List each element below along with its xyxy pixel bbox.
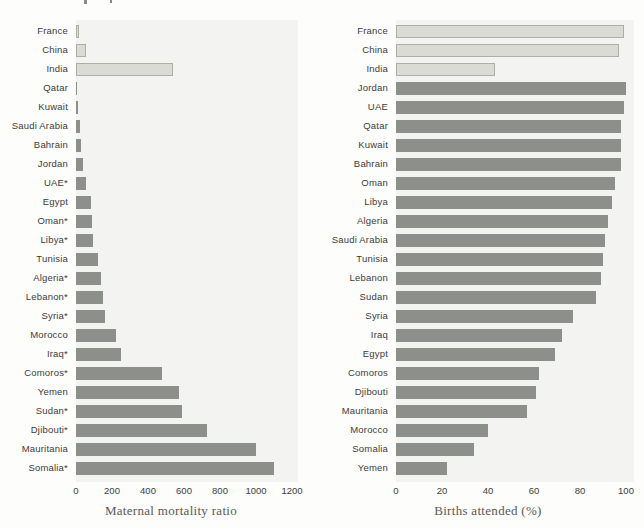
country-label: Djibouti* xyxy=(0,424,72,436)
bar xyxy=(396,196,612,209)
x-tick-label: 1200 xyxy=(275,485,309,496)
country-label: UAE* xyxy=(0,177,72,189)
bar xyxy=(76,462,274,475)
bar xyxy=(396,253,603,266)
bar xyxy=(76,253,98,266)
bar xyxy=(76,424,207,437)
country-label: Algeria xyxy=(322,215,392,227)
country-label: Libya xyxy=(322,196,392,208)
figure-canvas: FranceChinaIndiaQatarKuwaitSaudi ArabiaB… xyxy=(0,0,644,528)
country-label: Egypt xyxy=(322,348,392,360)
bar xyxy=(396,329,562,342)
country-label: Kuwait xyxy=(322,139,392,151)
x-tick-label: 800 xyxy=(203,485,237,496)
bar xyxy=(396,63,495,76)
bar xyxy=(396,120,621,133)
country-label: Mauritania xyxy=(322,405,392,417)
x-tick-label: 0 xyxy=(59,485,93,496)
bar xyxy=(76,272,101,285)
bar xyxy=(396,272,601,285)
country-label: Syria* xyxy=(0,310,72,322)
bar xyxy=(396,424,488,437)
country-label: Algeria* xyxy=(0,272,72,284)
country-label: Tunisia xyxy=(322,253,392,265)
country-label: Comoros xyxy=(322,367,392,379)
bar xyxy=(396,405,527,418)
maternal-mortality-chart: FranceChinaIndiaQatarKuwaitSaudi ArabiaB… xyxy=(0,0,322,528)
country-label: Qatar xyxy=(0,82,72,94)
country-label: China xyxy=(322,44,392,56)
bar xyxy=(76,443,256,456)
country-label: France xyxy=(0,25,72,37)
bar xyxy=(76,405,182,418)
country-label: UAE xyxy=(322,101,392,113)
bar xyxy=(76,139,81,152)
country-label: Somalia xyxy=(322,443,392,455)
bar xyxy=(396,158,621,171)
country-label: Iraq* xyxy=(0,348,72,360)
country-label: Yemen xyxy=(322,462,392,474)
bar xyxy=(76,386,179,399)
x-tick-label: 1000 xyxy=(239,485,273,496)
bar xyxy=(76,44,86,57)
bar xyxy=(76,101,78,114)
country-label: Morocco xyxy=(322,424,392,436)
bar xyxy=(396,139,621,152)
x-tick-label: 200 xyxy=(95,485,129,496)
bar xyxy=(76,158,83,171)
bar xyxy=(76,196,91,209)
country-label: Djibouti xyxy=(322,386,392,398)
country-label: Oman xyxy=(322,177,392,189)
country-label: Lebanon* xyxy=(0,291,72,303)
country-label: Bahrain xyxy=(0,139,72,151)
country-label: Kuwait xyxy=(0,101,72,113)
x-tick-label: 80 xyxy=(563,485,597,496)
country-label: Morocco xyxy=(0,329,72,341)
country-label: Saudi Arabia xyxy=(0,120,72,132)
country-label: Saudi Arabia xyxy=(322,234,392,246)
country-label: Iraq xyxy=(322,329,392,341)
bar xyxy=(396,44,619,57)
bar xyxy=(396,310,573,323)
country-label: Bahrain xyxy=(322,158,392,170)
country-label: Sudan xyxy=(322,291,392,303)
country-label: Comoros* xyxy=(0,367,72,379)
x-tick-label: 40 xyxy=(471,485,505,496)
country-label: Yemen xyxy=(0,386,72,398)
x-axis-title: Maternal mortality ratio xyxy=(76,503,266,519)
country-label: Jordan xyxy=(322,82,392,94)
country-label: India xyxy=(322,63,392,75)
x-tick-label: 400 xyxy=(131,485,165,496)
country-label: France xyxy=(322,25,392,37)
bar xyxy=(396,367,539,380)
bar xyxy=(396,348,555,361)
bar xyxy=(76,120,80,133)
bar xyxy=(396,462,447,475)
bar xyxy=(76,177,86,190)
country-label: Lebanon xyxy=(322,272,392,284)
bar xyxy=(76,234,93,247)
country-label: Egypt xyxy=(0,196,72,208)
x-tick-label: 600 xyxy=(167,485,201,496)
bar xyxy=(396,234,605,247)
births-attended-chart: FranceChinaIndiaJordanUAEQatarKuwaitBahr… xyxy=(322,0,644,528)
country-label: Oman* xyxy=(0,215,72,227)
x-tick-label: 20 xyxy=(425,485,459,496)
country-label: Jordan xyxy=(0,158,72,170)
x-tick-label: 100 xyxy=(609,485,643,496)
bar xyxy=(396,215,608,228)
bar xyxy=(76,310,105,323)
bar xyxy=(396,291,596,304)
country-label: Syria xyxy=(322,310,392,322)
bar xyxy=(76,82,77,95)
country-label: China xyxy=(0,44,72,56)
country-label: India xyxy=(0,63,72,75)
bar xyxy=(396,177,615,190)
bar xyxy=(76,63,173,76)
x-tick-label: 60 xyxy=(517,485,551,496)
bar xyxy=(76,329,116,342)
x-axis-title: Births attended (%) xyxy=(396,503,580,519)
country-label: Tunisia xyxy=(0,253,72,265)
bar xyxy=(396,82,626,95)
bar xyxy=(76,215,92,228)
